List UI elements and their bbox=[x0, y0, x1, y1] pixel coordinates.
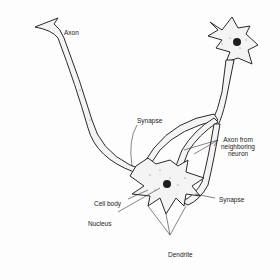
neuron-diagram: Axon Synapse Axon from neighboring neuro… bbox=[0, 0, 280, 280]
label-synapse-top: Synapse bbox=[137, 117, 162, 124]
label-axon: Axon bbox=[64, 29, 79, 36]
label-synapse-right: Synapse bbox=[219, 196, 244, 203]
label-axon-from-neighbor: Axon from neighboring neuron bbox=[218, 136, 258, 157]
neighbor-cell-body bbox=[208, 17, 258, 64]
nucleus-neighbor bbox=[233, 38, 241, 46]
label-dendrite: Dendrite bbox=[168, 251, 193, 258]
label-cell-body: Cell body bbox=[94, 200, 121, 207]
nucleus-main bbox=[163, 180, 171, 188]
axon-shape bbox=[35, 18, 138, 172]
label-nucleus: Nucleus bbox=[88, 220, 111, 227]
